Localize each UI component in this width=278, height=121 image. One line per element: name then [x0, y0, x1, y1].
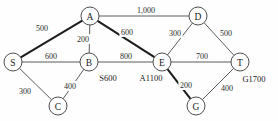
- graph-svg: 5006003004002001,00060080030050070020040…: [0, 0, 278, 121]
- node-label-d: D: [195, 12, 202, 22]
- node-a[interactable]: A: [81, 7, 99, 25]
- edge-weight-g-t: 400: [221, 84, 233, 93]
- t-annotation: G1700: [242, 74, 265, 84]
- b-annotation: S600: [99, 73, 116, 83]
- node-label-c: C: [55, 102, 61, 112]
- node-t[interactable]: T: [231, 53, 249, 71]
- node-e[interactable]: E: [153, 53, 171, 71]
- graph-diagram-canvas: 5006003004002001,00060080030050070020040…: [0, 0, 278, 121]
- node-label-b: B: [86, 58, 92, 68]
- edge-weight-s-c: 300: [19, 87, 31, 96]
- edge-weight-a-d: 1,000: [137, 6, 155, 15]
- node-label-g: G: [193, 102, 200, 112]
- edge-weight-d-e: 300: [169, 29, 181, 38]
- edge-weight-d-t: 500: [220, 29, 232, 38]
- node-g[interactable]: G: [187, 97, 205, 115]
- node-label-e: E: [159, 58, 165, 68]
- node-s[interactable]: S: [4, 53, 22, 71]
- edge-weight-b-e: 800: [120, 52, 132, 61]
- edge-weight-b-c: 400: [64, 82, 76, 91]
- node-label-s: S: [10, 58, 15, 68]
- node-c[interactable]: C: [49, 97, 67, 115]
- node-label-a: A: [87, 12, 94, 22]
- node-d[interactable]: D: [189, 7, 207, 25]
- node-label-t: T: [237, 58, 243, 68]
- edge-weight-a-e: 600: [121, 28, 133, 37]
- edge-weight-e-g: 200: [180, 81, 192, 90]
- edge-weight-a-b: 200: [77, 35, 89, 44]
- edge-weight-e-t: 700: [196, 52, 208, 61]
- edge-weight-s-a: 500: [36, 24, 48, 33]
- node-b[interactable]: B: [80, 53, 98, 71]
- edge-weight-s-b: 600: [45, 52, 57, 61]
- e-annotation: A1100: [140, 73, 163, 83]
